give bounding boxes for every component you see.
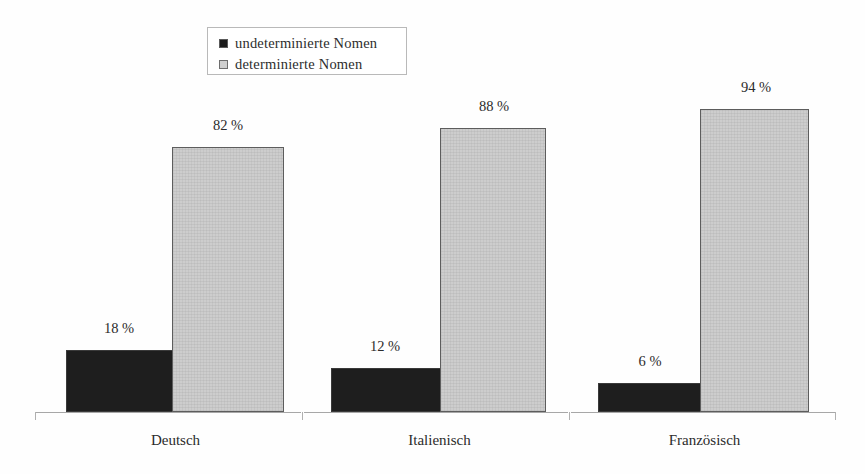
plot-area: 18 % 82 % 12 % 88 % 6 % 94 % Deutsch Ita… — [0, 0, 865, 474]
axis-baseline-segment — [304, 412, 568, 413]
category-label-italienisch: Italienisch — [333, 432, 546, 449]
axis-tick — [835, 412, 836, 420]
bar-determinierte-deutsch — [172, 147, 284, 412]
axis-tick — [35, 412, 36, 420]
bar-undeterminierte-deutsch — [66, 350, 173, 412]
axis-tick — [302, 412, 303, 420]
category-label-deutsch: Deutsch — [68, 432, 283, 449]
value-label-undeterminierte-franzoesisch: 6 % — [600, 353, 700, 370]
bar-determinierte-italienisch — [440, 128, 546, 412]
bar-undeterminierte-franzoesisch — [598, 383, 701, 412]
value-label-determinierte-franzoesisch: 94 % — [706, 79, 806, 96]
axis-tick — [569, 412, 570, 420]
bar-determinierte-franzoesisch — [700, 109, 809, 412]
value-label-determinierte-italienisch: 88 % — [444, 98, 544, 115]
value-label-determinierte-deutsch: 82 % — [178, 117, 278, 134]
category-label-franzoesisch: Französisch — [600, 432, 809, 449]
bar-undeterminierte-italienisch — [331, 368, 441, 412]
value-label-undeterminierte-deutsch: 18 % — [69, 320, 169, 337]
axis-baseline-segment — [35, 412, 301, 413]
bar-chart: undeterminierte Nomen determinierte Nome… — [0, 0, 865, 474]
value-label-undeterminierte-italienisch: 12 % — [335, 338, 435, 355]
axis-baseline-segment — [571, 412, 835, 413]
